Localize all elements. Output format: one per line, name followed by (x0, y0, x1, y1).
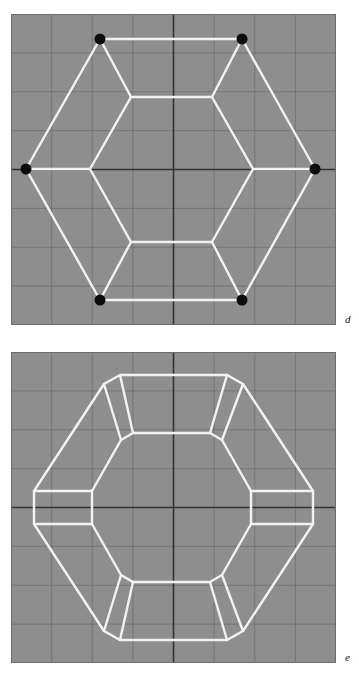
vertex-marker (21, 164, 32, 175)
panel-e-drawing (11, 352, 336, 663)
panel-e (11, 352, 336, 663)
figure-stack: d e (0, 0, 359, 679)
panel-e-label: e (345, 652, 350, 663)
panel-d (11, 14, 336, 325)
vertex-marker (237, 34, 248, 45)
panel-d-label: d (345, 314, 351, 325)
vertex-marker (237, 295, 248, 306)
panel-d-drawing (11, 14, 336, 325)
vertex-marker (95, 295, 106, 306)
vertex-marker (310, 164, 321, 175)
vertex-marker (95, 34, 106, 45)
